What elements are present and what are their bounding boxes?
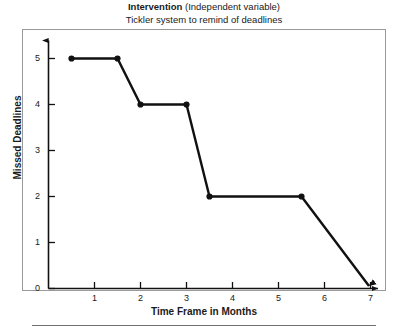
chart-subtitle: Tickler system to remind of deadlines (0, 14, 408, 26)
x-tick-label-5: 5 (272, 293, 286, 303)
bottom-divider (32, 325, 376, 326)
x-tick-label-4: 4 (226, 293, 240, 303)
y-tick-label-3: 3 (26, 145, 40, 155)
chart-title-strong: Intervention (128, 1, 182, 12)
y-tick-label-4: 4 (26, 99, 40, 109)
y-tick-label-0: 0 (26, 283, 40, 293)
plot-frame (22, 29, 386, 291)
x-tick-label-2: 2 (134, 293, 148, 303)
chart-title-line-1: Intervention (Independent variable) (0, 1, 408, 13)
x-axis-title: Time Frame in Months (0, 306, 408, 317)
x-tick-label-3: 3 (180, 293, 194, 303)
y-tick-label-1: 1 (26, 237, 40, 247)
x-tick-label-7: 7 (364, 293, 378, 303)
x-tick-label-1: 1 (88, 293, 102, 303)
y-tick-label-5: 5 (26, 53, 40, 63)
y-tick-label-2: 2 (26, 191, 40, 201)
y-axis-title: Missed Deadlines (12, 73, 23, 203)
chart-title-block: Intervention (Independent variable) Tick… (0, 1, 408, 26)
chart-title-normal: (Independent variable) (182, 1, 280, 12)
x-tick-label-6: 6 (318, 293, 332, 303)
